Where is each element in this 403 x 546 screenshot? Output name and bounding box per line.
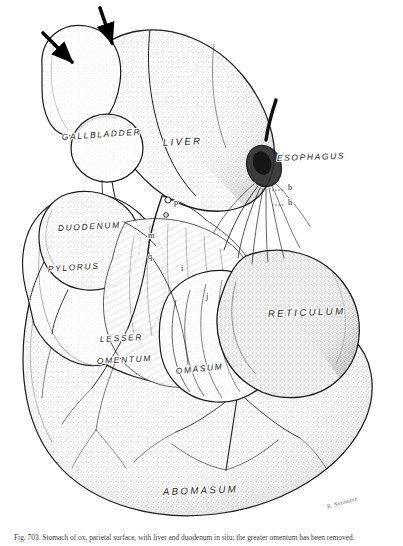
caption-text: Fig. 703. Stomach of ox, parietal surfac… [14, 533, 355, 542]
callout-letter-j: j [205, 292, 208, 301]
organ-label-liver: LIVER [163, 135, 203, 148]
callout-letter-m: m [148, 231, 155, 240]
figure-canvas: GALLBLADDERLIVERESOPHAGUSDUODENUMPYLORUS… [0, 0, 403, 546]
figure-caption: Fig. 703. Stomach of ox, parietal surfac… [14, 533, 392, 546]
callout-letter-h: h [288, 198, 292, 207]
callout-letter-b: b [288, 183, 292, 192]
callout-letter-q: q [148, 252, 152, 261]
callout-letter-p: p [174, 198, 178, 207]
anatomical-figure: GALLBLADDERLIVERESOPHAGUSDUODENUMPYLORUS… [0, 0, 403, 546]
